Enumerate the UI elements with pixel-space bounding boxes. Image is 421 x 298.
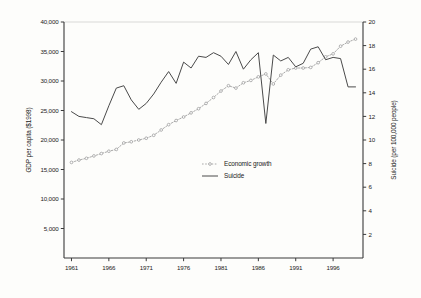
legend-label-suicide: Suicide xyxy=(224,172,245,179)
chart-figure: 5,00010,00015,00020,00025,00030,00035,00… xyxy=(0,0,421,298)
series-marker-economic-growth xyxy=(182,116,185,119)
series-marker-economic-growth xyxy=(115,148,118,151)
left-axis-tick-label: 35,000 xyxy=(40,48,59,55)
series-marker-economic-growth xyxy=(317,61,320,64)
series-marker-economic-growth xyxy=(93,155,96,158)
series-marker-economic-growth xyxy=(220,90,223,93)
series-marker-economic-growth xyxy=(339,45,342,48)
series-marker-economic-growth xyxy=(279,74,282,77)
right-axis-tick-label: 12 xyxy=(369,113,376,120)
series-marker-economic-growth xyxy=(354,38,357,41)
series-marker-economic-growth xyxy=(227,84,230,87)
right-axis-tick-label: 4 xyxy=(369,207,373,214)
series-marker-economic-growth xyxy=(85,157,88,160)
series-marker-economic-growth xyxy=(137,139,140,142)
series-marker-economic-growth xyxy=(78,159,81,162)
series-line-suicide xyxy=(71,47,355,125)
series-marker-economic-growth xyxy=(332,53,335,56)
x-axis-tick-label: 1991 xyxy=(289,264,303,271)
right-axis-tick-label: 2 xyxy=(369,231,373,238)
series-marker-economic-growth xyxy=(160,129,163,132)
series-marker-economic-growth xyxy=(122,142,125,145)
left-axis-tick-label: 25,000 xyxy=(40,107,59,114)
x-axis-tick-label: 1966 xyxy=(102,264,116,271)
series-marker-economic-growth xyxy=(212,96,215,99)
left-axis-tick-label: 15,000 xyxy=(40,166,59,173)
series-marker-economic-growth xyxy=(197,107,200,110)
series-marker-economic-growth xyxy=(257,76,260,79)
right-axis-tick-label: 14 xyxy=(369,89,376,96)
left-axis-tick-label: 5,000 xyxy=(44,225,59,232)
right-axis-tick-label: 8 xyxy=(369,160,373,167)
series-marker-economic-growth xyxy=(205,102,208,105)
series-marker-economic-growth xyxy=(272,83,275,86)
series-marker-economic-growth xyxy=(287,68,290,71)
series-marker-economic-growth xyxy=(264,73,267,76)
x-axis-tick-label: 1996 xyxy=(327,264,341,271)
series-marker-economic-growth xyxy=(145,137,148,140)
series-marker-economic-growth xyxy=(70,161,73,164)
legend-marker-economic-growth xyxy=(209,163,212,166)
series-marker-economic-growth xyxy=(167,123,170,126)
series-marker-economic-growth xyxy=(190,112,193,115)
left-axis-tick-label: 10,000 xyxy=(40,195,59,202)
left-axis-tick-label: 20,000 xyxy=(40,136,59,143)
right-axis-tick-label: 16 xyxy=(369,65,376,72)
series-marker-economic-growth xyxy=(175,119,178,122)
right-axis-tick-label: 18 xyxy=(369,42,376,49)
series-marker-economic-growth xyxy=(100,152,103,155)
series-line-economic-growth xyxy=(71,39,355,162)
legend-label-economic-growth: Economic growth xyxy=(224,160,272,168)
y-axis-title: GDP per capita ($1998) xyxy=(25,107,33,172)
x-axis-tick-label: 1976 xyxy=(177,264,191,271)
x-axis-tick-label: 1961 xyxy=(65,264,79,271)
right-axis-tick-label: 6 xyxy=(369,183,373,190)
left-axis-tick-label: 30,000 xyxy=(40,77,59,84)
series-marker-economic-growth xyxy=(347,41,350,44)
series-marker-economic-growth xyxy=(152,134,155,137)
series-marker-economic-growth xyxy=(242,81,245,84)
x-axis-tick-label: 1981 xyxy=(214,264,228,271)
right-axis-tick-label: 20 xyxy=(369,18,376,25)
series-marker-economic-growth xyxy=(250,79,253,82)
left-axis-tick-label: 40,000 xyxy=(40,18,59,25)
y2-axis-title: Suicide (per 100,000 people) xyxy=(390,100,398,179)
right-axis-tick-label: 10 xyxy=(369,136,376,143)
x-axis-tick-label: 1971 xyxy=(140,264,154,271)
x-axis-tick-label: 1986 xyxy=(252,264,266,271)
series-marker-economic-growth xyxy=(309,66,312,69)
series-marker-economic-growth xyxy=(130,140,133,143)
series-marker-economic-growth xyxy=(108,150,111,153)
dual-axis-line-chart: 5,00010,00015,00020,00025,00030,00035,00… xyxy=(0,0,421,298)
series-marker-economic-growth xyxy=(302,67,305,70)
series-marker-economic-growth xyxy=(235,87,238,90)
